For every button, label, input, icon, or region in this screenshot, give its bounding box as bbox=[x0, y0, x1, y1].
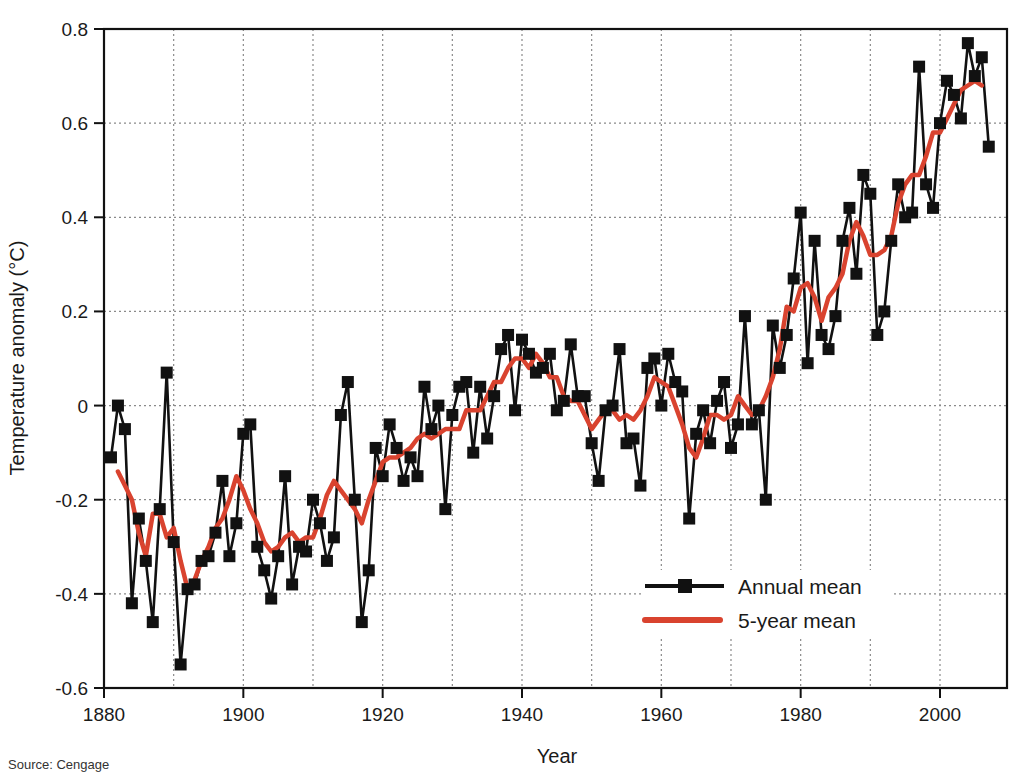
annual-mean-marker bbox=[607, 400, 619, 412]
annual-mean-marker bbox=[467, 447, 479, 459]
annual-mean-marker bbox=[767, 320, 779, 332]
annual-mean-marker bbox=[565, 338, 577, 350]
annual-mean-marker bbox=[481, 433, 493, 445]
x-tick-label: 1980 bbox=[780, 704, 822, 725]
annual-mean-marker bbox=[627, 433, 639, 445]
annual-mean-marker bbox=[544, 348, 556, 360]
annual-mean-marker bbox=[941, 75, 953, 87]
annual-mean-marker bbox=[809, 235, 821, 247]
annual-mean-marker bbox=[251, 541, 263, 553]
annual-mean-marker bbox=[655, 400, 667, 412]
annual-mean-marker bbox=[948, 89, 960, 101]
annual-mean-marker bbox=[314, 517, 326, 529]
annual-mean-marker bbox=[377, 470, 389, 482]
annual-mean-marker bbox=[760, 494, 772, 506]
annual-mean-marker bbox=[307, 494, 319, 506]
annual-mean-marker bbox=[356, 616, 368, 628]
legend: Annual mean 5-year mean bbox=[642, 570, 892, 638]
annual-mean-marker bbox=[272, 550, 284, 562]
annual-mean-marker bbox=[516, 334, 528, 346]
annual-mean-marker bbox=[265, 593, 277, 605]
annual-mean-marker bbox=[119, 423, 131, 435]
annual-mean-marker bbox=[412, 470, 424, 482]
annual-mean-marker bbox=[586, 437, 598, 449]
y-tick-label: -0.4 bbox=[55, 584, 88, 605]
annual-mean-marker bbox=[258, 564, 270, 576]
annual-mean-marker bbox=[105, 451, 117, 463]
annual-mean-marker bbox=[830, 310, 842, 322]
annual-mean-marker bbox=[349, 494, 361, 506]
annual-mean-marker bbox=[676, 385, 688, 397]
annual-mean-marker bbox=[126, 597, 138, 609]
annual-mean-marker bbox=[384, 418, 396, 430]
annual-mean-marker bbox=[927, 202, 939, 214]
x-axis-title: Year bbox=[537, 745, 578, 767]
annual-mean-marker bbox=[147, 616, 159, 628]
annual-mean-marker bbox=[871, 329, 883, 341]
annual-mean-marker bbox=[774, 362, 786, 374]
legend-square-marker-icon bbox=[678, 579, 692, 593]
annual-mean-marker bbox=[753, 404, 765, 416]
annual-mean-marker bbox=[168, 536, 180, 548]
x-tick-label: 1960 bbox=[640, 704, 682, 725]
y-tick-label: 0.6 bbox=[62, 113, 88, 134]
annual-mean-marker bbox=[363, 564, 375, 576]
annual-mean-marker bbox=[537, 362, 549, 374]
x-tick-label: 1920 bbox=[362, 704, 404, 725]
annual-mean-marker bbox=[962, 37, 974, 49]
annual-mean-marker bbox=[154, 503, 166, 515]
annual-mean-marker bbox=[321, 555, 333, 567]
y-tick-label: -0.2 bbox=[55, 490, 88, 511]
x-tick-label: 1940 bbox=[501, 704, 543, 725]
annual-mean-marker bbox=[509, 404, 521, 416]
annual-mean-marker bbox=[836, 235, 848, 247]
annual-mean-marker bbox=[209, 527, 221, 539]
annual-mean-marker bbox=[488, 390, 500, 402]
annual-mean-marker bbox=[697, 404, 709, 416]
annual-mean-marker bbox=[523, 348, 535, 360]
annual-mean-marker bbox=[732, 418, 744, 430]
annual-mean-marker bbox=[216, 475, 228, 487]
annual-mean-marker bbox=[446, 409, 458, 421]
annual-mean-marker bbox=[223, 550, 235, 562]
annual-mean-marker bbox=[864, 188, 876, 200]
annual-mean-marker bbox=[955, 112, 967, 124]
annual-mean-marker bbox=[300, 545, 312, 557]
annual-mean-marker bbox=[460, 376, 472, 388]
annual-mean-marker bbox=[690, 428, 702, 440]
annual-mean-marker bbox=[788, 272, 800, 284]
annual-mean-marker bbox=[892, 178, 904, 190]
annual-mean-marker bbox=[634, 480, 646, 492]
y-tick-label: 0 bbox=[77, 396, 88, 417]
annual-mean-marker bbox=[391, 442, 403, 454]
legend-5-year-mean-label: 5-year mean bbox=[738, 609, 856, 632]
annual-mean-marker bbox=[558, 395, 570, 407]
legend-annual-mean-label: Annual mean bbox=[738, 575, 862, 598]
annual-mean-marker bbox=[439, 503, 451, 515]
annual-mean-marker bbox=[648, 353, 660, 365]
x-tick-label: 1900 bbox=[222, 704, 264, 725]
annual-mean-marker bbox=[781, 329, 793, 341]
annual-mean-marker bbox=[502, 329, 514, 341]
annual-mean-marker bbox=[342, 376, 354, 388]
y-tick-label: 0.2 bbox=[62, 301, 88, 322]
five-year-mean-line bbox=[118, 81, 982, 589]
x-tick-label: 1880 bbox=[83, 704, 125, 725]
annual-mean-marker bbox=[746, 418, 758, 430]
annual-mean-marker bbox=[885, 235, 897, 247]
annual-mean-marker bbox=[683, 513, 695, 525]
annual-mean-marker bbox=[286, 578, 298, 590]
annual-mean-marker bbox=[739, 310, 751, 322]
annual-mean-marker bbox=[816, 329, 828, 341]
annual-mean-marker bbox=[711, 395, 723, 407]
annual-mean-marker bbox=[405, 451, 417, 463]
annual-mean-marker bbox=[335, 409, 347, 421]
annual-mean-marker bbox=[495, 343, 507, 355]
annual-mean-marker bbox=[175, 658, 187, 670]
annual-mean-marker bbox=[934, 117, 946, 129]
annual-mean-marker bbox=[906, 207, 918, 219]
annual-mean-marker bbox=[579, 390, 591, 402]
annual-mean-marker bbox=[161, 367, 173, 379]
annual-mean-marker bbox=[614, 343, 626, 355]
annual-mean-marker bbox=[432, 400, 444, 412]
